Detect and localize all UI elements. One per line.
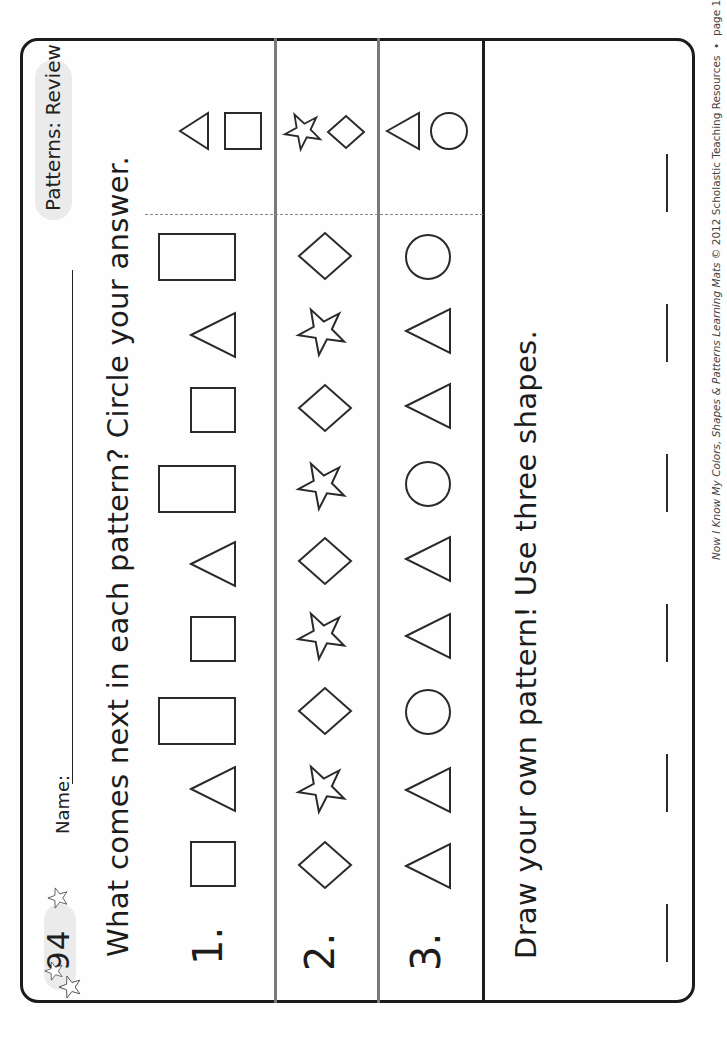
circle-shape — [405, 689, 451, 735]
triangle-shape — [405, 613, 451, 659]
star-icon — [47, 887, 73, 909]
choice-star[interactable] — [283, 111, 323, 151]
triangle-shape — [405, 843, 451, 889]
choice-diamond[interactable] — [327, 115, 365, 149]
answer-separator — [145, 214, 483, 215]
footer-copyright: © 2012 Scholastic Teaching Resources — [710, 56, 722, 260]
circle-shape — [405, 461, 451, 507]
star-shape — [296, 609, 348, 661]
circle-shape — [405, 234, 451, 280]
rectangle-shape — [158, 697, 236, 745]
footer-book-title: Now I Know My Colors, Shapes & Patterns … — [710, 262, 722, 560]
rectangle-shape — [158, 233, 236, 281]
star-icon — [44, 961, 68, 981]
triangle-shape — [190, 766, 236, 812]
row-number-1: 1. — [186, 927, 230, 965]
instruction-text: What comes next in each pattern? Circle … — [98, 156, 138, 957]
diamond-shape — [298, 232, 352, 280]
footer-separator: • — [710, 43, 722, 49]
star-shape — [296, 459, 348, 511]
triangle-shape — [190, 312, 236, 358]
choice-circle[interactable] — [430, 112, 468, 150]
triangle-shape — [405, 767, 451, 813]
draw-instruction: Draw your own pattern! Use three shapes. — [506, 330, 546, 959]
footer-credit: Now I Know My Colors, Shapes & Patterns … — [708, 35, 724, 560]
rectangle-shape — [158, 465, 236, 513]
row-number-3: 3. — [404, 933, 448, 971]
triangle-shape — [405, 536, 451, 582]
star-shape — [296, 762, 348, 814]
worksheet-page: 94 Name: Patterns: Review What comes nex… — [0, 0, 727, 1037]
choice-square[interactable] — [224, 112, 262, 150]
name-field[interactable] — [72, 270, 73, 784]
triangle-shape — [405, 383, 451, 429]
diamond-shape — [298, 687, 352, 735]
diamond-shape — [298, 384, 352, 432]
diamond-shape — [298, 841, 352, 889]
choice-triangle[interactable] — [179, 112, 209, 150]
blank-line-2[interactable] — [666, 754, 668, 812]
row-divider — [274, 38, 277, 1003]
page-title: Patterns: Review — [38, 61, 68, 211]
blank-line-4[interactable] — [666, 454, 668, 512]
footer-page-ref: page 102 — [710, 0, 722, 36]
blank-line-1[interactable] — [666, 904, 668, 962]
row-number-2: 2. — [298, 933, 342, 971]
blank-line-5[interactable] — [666, 304, 668, 362]
blank-line-3[interactable] — [666, 604, 668, 662]
star-shape — [296, 305, 348, 357]
diamond-shape — [298, 537, 352, 585]
square-shape — [190, 387, 236, 433]
triangle-shape — [190, 541, 236, 587]
row-divider — [377, 38, 380, 1003]
square-shape — [190, 841, 236, 887]
section-divider — [482, 38, 485, 1003]
choice-triangle[interactable] — [386, 112, 420, 150]
blank-line-6[interactable] — [666, 154, 668, 212]
square-shape — [190, 616, 236, 662]
triangle-shape — [405, 308, 451, 354]
